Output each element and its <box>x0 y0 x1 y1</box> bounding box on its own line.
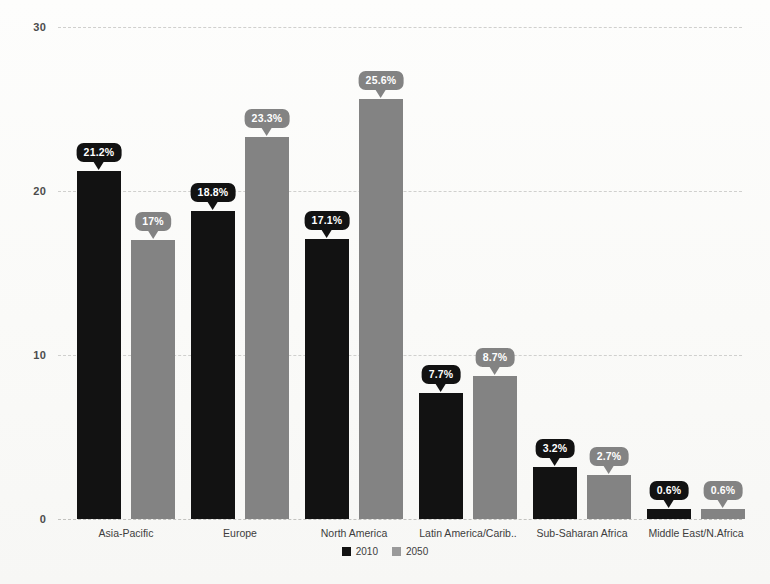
legend-swatch-2050-icon <box>392 547 401 556</box>
bar-2050-north-america: 25.6% <box>359 99 403 519</box>
bar-group-sub-saharan-africa: 3.2% 2.7% <box>525 27 639 519</box>
value-label-2010-europe: 18.8% <box>191 183 236 203</box>
value-label-2050-sub-saharan-africa: 2.7% <box>590 447 629 467</box>
value-label-2050-latin-america: 8.7% <box>476 348 515 368</box>
bar-2010-latin-america: 7.7% <box>419 393 463 519</box>
value-label-2010-latin-america: 7.7% <box>422 365 461 385</box>
bar-2010-asia-pacific: 21.2% <box>77 171 121 519</box>
x-axis-label-middle-east-north-africa: Middle East/N.Africa <box>632 527 760 539</box>
value-label-2010-sub-saharan-africa: 3.2% <box>536 439 575 459</box>
y-axis-tick-20: 20 <box>6 185 46 197</box>
x-axis-label-north-america: North America <box>297 527 411 539</box>
bar-group-middle-east-north-africa: 0.6% 0.6% <box>639 27 753 519</box>
bar-2050-middle-east-north-africa: 0.6% <box>701 509 745 519</box>
value-label-2050-middle-east-north-africa: 0.6% <box>704 481 743 501</box>
legend-item-2050: 2050 <box>392 546 428 557</box>
bar-2010-middle-east-north-africa: 0.6% <box>647 509 691 519</box>
bar-2050-sub-saharan-africa: 2.7% <box>587 475 631 519</box>
value-label-2050-asia-pacific: 17% <box>135 212 171 232</box>
bar-chart: 30 20 10 0 21.2% 17% Asia-Pacific 18.8% … <box>0 0 770 584</box>
x-axis-label-europe: Europe <box>183 527 297 539</box>
bar-2050-asia-pacific: 17% <box>131 240 175 519</box>
legend: 2010 2050 <box>0 546 770 557</box>
value-label-2050-north-america: 25.6% <box>359 71 404 91</box>
bar-group-asia-pacific: 21.2% 17% <box>69 27 183 519</box>
bar-2050-latin-america: 8.7% <box>473 376 517 519</box>
y-axis-tick-10: 10 <box>6 349 46 361</box>
gridline-0 <box>58 519 742 520</box>
value-label-2050-europe: 23.3% <box>245 109 290 129</box>
bar-2010-sub-saharan-africa: 3.2% <box>533 467 577 519</box>
bar-2010-europe: 18.8% <box>191 211 235 519</box>
legend-swatch-2010-icon <box>342 547 351 556</box>
bar-group-north-america: 17.1% 25.6% <box>297 27 411 519</box>
y-axis-tick-0: 0 <box>6 513 46 525</box>
x-axis-label-asia-pacific: Asia-Pacific <box>69 527 183 539</box>
y-axis-tick-30: 30 <box>6 21 46 33</box>
bar-group-europe: 18.8% 23.3% <box>183 27 297 519</box>
legend-item-2010: 2010 <box>342 546 378 557</box>
x-axis-label-latin-america: Latin America/Carib.. <box>411 527 525 539</box>
value-label-2010-middle-east-north-africa: 0.6% <box>650 481 689 501</box>
legend-label-2010: 2010 <box>356 546 378 557</box>
x-axis-label-sub-saharan-africa: Sub-Saharan Africa <box>525 527 639 539</box>
legend-label-2050: 2050 <box>406 546 428 557</box>
bar-2010-north-america: 17.1% <box>305 239 349 519</box>
bar-2050-europe: 23.3% <box>245 137 289 519</box>
value-label-2010-north-america: 17.1% <box>305 211 350 231</box>
value-label-2010-asia-pacific: 21.2% <box>77 143 122 163</box>
bar-group-latin-america: 7.7% 8.7% <box>411 27 525 519</box>
